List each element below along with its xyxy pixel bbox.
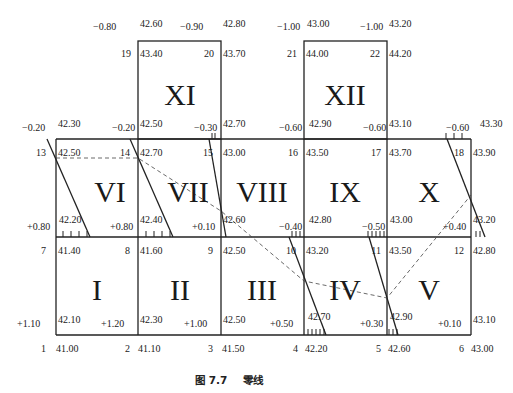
corner-label: 11 (371, 245, 381, 256)
corner-label: 8 (125, 245, 130, 256)
corner-label: −0.80 (93, 21, 116, 32)
corner-label: 42.10 (58, 314, 81, 325)
corner-label: −0.40 (279, 221, 302, 232)
corner-label: −1.00 (277, 21, 300, 32)
corner-label: 42.60 (140, 18, 163, 29)
corner-label: 42.20 (305, 343, 328, 354)
corner-label: +0.10 (192, 221, 215, 232)
corner-label: 9 (208, 245, 213, 256)
corner-label: +1.20 (101, 318, 124, 329)
corner-label: +1.10 (17, 318, 40, 329)
square-label-ii: II (170, 273, 190, 306)
corner-label: 7 (41, 245, 46, 256)
square-label-xi: XI (164, 78, 196, 111)
corner-label: 43.90 (473, 147, 496, 158)
zero-line-grid-diagram: IIIIIIIVVVIVIIVIIIIXXXIXII −0.8042.60−0.… (0, 0, 513, 393)
corner-label: −0.90 (180, 21, 203, 32)
corner-label: 43.10 (389, 118, 412, 129)
corner-label: +0.50 (270, 318, 293, 329)
corner-label: 15 (203, 147, 213, 158)
corner-label: 16 (288, 147, 298, 158)
corner-label: 42.90 (390, 311, 413, 322)
corner-label: 41.50 (222, 343, 245, 354)
corner-label: +1.00 (184, 318, 207, 329)
square-label-v: V (418, 273, 440, 306)
corner-label: 13 (36, 147, 46, 158)
corner-label: 41.60 (140, 245, 163, 256)
square-label-vi: VI (94, 175, 126, 208)
corner-label: 42.80 (309, 214, 332, 225)
corner-label: +0.30 (360, 318, 383, 329)
figure-number: 图 7.7 (195, 374, 227, 386)
corner-label: 42.60 (388, 343, 411, 354)
corner-label: 12 (454, 245, 464, 256)
corner-label: −0.60 (446, 122, 469, 133)
corner-label: −0.20 (22, 122, 45, 133)
corner-label: 43.00 (223, 147, 246, 158)
corner-label: 19 (121, 48, 131, 59)
corner-label: 4 (293, 343, 298, 354)
corner-label: 43.70 (223, 48, 246, 59)
corner-label: 43.40 (140, 48, 163, 59)
corner-label: −0.50 (362, 221, 385, 232)
corner-label: 44.20 (389, 48, 412, 59)
corner-label: 43.20 (306, 245, 329, 256)
figure-title: 零线 (242, 374, 264, 386)
corner-label: 42.30 (58, 118, 81, 129)
corner-label: +0.40 (443, 221, 466, 232)
corner-label: +0.80 (110, 221, 133, 232)
corner-label: 43.20 (473, 214, 496, 225)
square-label-iv: IV (329, 273, 361, 306)
square-labels: IIIIIIIVVVIVIIVIIIIXXXIXII (92, 78, 440, 306)
corner-label: 42.90 (309, 118, 332, 129)
corner-label: −0.30 (194, 122, 217, 133)
corner-label: 42.50 (223, 314, 246, 325)
corner-label: 43.50 (306, 147, 329, 158)
square-label-xii: XII (324, 78, 366, 111)
corner-label: 43.00 (390, 214, 413, 225)
corner-label: +0.10 (438, 318, 461, 329)
square-label-ix: IX (329, 175, 361, 208)
corner-label: 44.00 (306, 48, 329, 59)
square-label-vii: VII (167, 175, 209, 208)
corner-label: +0.80 (27, 221, 50, 232)
corner-label: 42.30 (140, 314, 163, 325)
corner-label: 42.20 (59, 214, 82, 225)
corner-label: 5 (376, 343, 381, 354)
corner-label: 42.80 (473, 245, 496, 256)
corner-label: 41.10 (138, 343, 161, 354)
corner-label: −0.20 (112, 122, 135, 133)
corner-label: −0.60 (363, 122, 386, 133)
corner-label: 43.70 (389, 147, 412, 158)
square-label-iii: III (247, 273, 277, 306)
corner-label: 41.40 (58, 245, 81, 256)
square-label-i: I (92, 273, 102, 306)
corner-label: 42.40 (140, 214, 163, 225)
corner-label: 1 (41, 343, 46, 354)
corner-label: 42.50 (140, 118, 163, 129)
corner-label: 22 (370, 48, 380, 59)
corner-label: 14 (120, 147, 130, 158)
corner-label: −0.60 (279, 122, 302, 133)
corner-label: 2 (125, 343, 130, 354)
corner-label: 42.70 (308, 311, 331, 322)
square-label-viii: VIII (236, 175, 288, 208)
corner-label: 42.50 (58, 147, 81, 158)
corner-label: 43.30 (480, 118, 503, 129)
corner-label: 43.50 (389, 245, 412, 256)
corner-label: 6 (459, 343, 464, 354)
corner-label: 43.00 (307, 18, 330, 29)
square-label-x: X (418, 175, 440, 208)
corner-label: 10 (286, 245, 296, 256)
corner-label: 17 (371, 147, 381, 158)
corner-label: 41.00 (56, 343, 79, 354)
corner-label: 43.00 (471, 343, 494, 354)
corner-label: 42.70 (140, 147, 163, 158)
corner-label: 43.10 (473, 314, 496, 325)
corner-label: 42.50 (223, 245, 246, 256)
corner-label: 18 (454, 147, 464, 158)
corner-label: 42.80 (223, 18, 246, 29)
corner-label: 42.60 (223, 214, 246, 225)
corner-label: 20 (204, 48, 214, 59)
corner-label: 43.20 (389, 18, 412, 29)
